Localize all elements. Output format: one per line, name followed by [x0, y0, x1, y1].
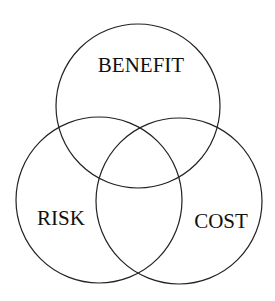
- venn-diagram: BENEFIT RISK COST: [0, 0, 275, 301]
- risk-circle: [16, 117, 182, 283]
- benefit-label: BENEFIT: [98, 53, 185, 77]
- benefit-circle: [56, 24, 220, 188]
- venn-svg: BENEFIT RISK COST: [0, 0, 275, 301]
- risk-label: RISK: [37, 206, 85, 230]
- cost-circle: [96, 118, 262, 284]
- cost-label: COST: [194, 209, 248, 233]
